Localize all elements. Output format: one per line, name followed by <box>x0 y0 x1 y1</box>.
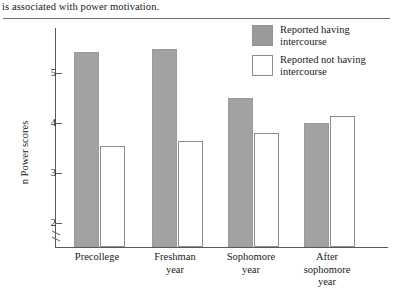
y-tick-label-4: 4 <box>36 118 56 128</box>
legend-item-not-having: Reported not having intercourse <box>252 54 392 78</box>
x-axis-label-sophomore-line2: year <box>242 264 260 275</box>
x-axis-label-after-sophomore-line1: After <box>316 251 338 262</box>
legend-label-not-having: Reported not having intercourse <box>280 54 392 78</box>
x-axis-label-after-sophomore-line3: year <box>318 276 336 287</box>
legend-item-having: Reported having intercourse <box>252 24 392 48</box>
y-tick-mark-5 <box>56 73 62 74</box>
bar-sophomore-not-having <box>254 133 279 247</box>
x-axis-label-after-sophomore-line2: sophomore <box>304 264 351 275</box>
x-axis-line <box>55 247 388 248</box>
bar-freshman-having <box>152 49 177 247</box>
y-axis-line <box>55 28 56 247</box>
bar-after-sophomore-not-having <box>330 116 355 248</box>
y-tick-mark-3 <box>56 173 62 174</box>
x-axis-label-freshman-line2: year <box>166 264 184 275</box>
y-tick-label-5: 5 <box>36 68 56 78</box>
y-axis-title: n Power scores <box>19 88 30 218</box>
axis-break-icon <box>49 229 63 247</box>
caption-text: is associated with power motivation. <box>2 0 391 13</box>
x-axis-label-freshman-line1: Freshman <box>154 251 195 262</box>
legend: Reported having intercourse Reported not… <box>252 24 392 84</box>
legend-swatch-having <box>252 25 273 46</box>
legend-label-having: Reported having intercourse <box>280 24 392 48</box>
y-tick-mark-4 <box>56 123 62 124</box>
bar-freshman-not-having <box>178 141 203 248</box>
bar-after-sophomore-having <box>304 123 329 247</box>
bar-sophomore-having <box>228 98 253 247</box>
y-tick-label-3: 3 <box>36 168 56 178</box>
legend-swatch-not-having <box>252 55 273 76</box>
x-axis-label-after-sophomore: After sophomore year <box>279 251 375 289</box>
x-axis-label-sophomore-line1: Sophomore <box>227 251 275 262</box>
y-tick-label-2: 2 <box>36 218 56 228</box>
bar-precollege-not-having <box>100 146 125 248</box>
figure-container: n Power scores 5 4 3 2 Precollege Freshm… <box>0 19 393 296</box>
bar-precollege-having <box>74 52 99 247</box>
y-tick-mark-2 <box>56 223 62 224</box>
